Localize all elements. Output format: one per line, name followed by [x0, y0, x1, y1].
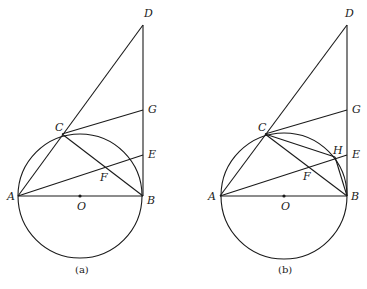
label-g-b: G	[352, 103, 361, 116]
label-e-a: E	[147, 148, 156, 161]
segment-hb-b	[335, 157, 347, 196]
label-c-b: C	[258, 121, 267, 134]
label-f-b: F	[302, 170, 311, 183]
label-o-a: O	[77, 200, 86, 213]
caption-b: (b)	[278, 264, 292, 275]
label-d-a: D	[143, 7, 153, 20]
label-d-b: D	[344, 7, 354, 20]
label-b-a: B	[146, 194, 155, 207]
segment-ad-b	[220, 25, 347, 196]
segment-ad-a	[18, 25, 143, 196]
center-dot-a	[78, 194, 81, 197]
segment-cg-a	[62, 110, 143, 134]
segment-cb-a	[62, 134, 143, 196]
segment-ae-a	[18, 155, 143, 196]
label-f-a: F	[99, 171, 108, 184]
figure-a: D G E C F A B O (a)	[6, 7, 157, 275]
label-a-a: A	[6, 190, 15, 203]
label-g-a: G	[148, 103, 157, 116]
figure-b: D G E H C F A B O (b)	[207, 7, 361, 275]
label-a-b: A	[207, 190, 216, 203]
label-e-b: E	[351, 148, 360, 161]
segment-cg-b	[265, 110, 347, 134]
label-c-a: C	[55, 121, 64, 134]
geometry-diagram: D G E C F A B O (a) D G E H C F A B O (b…	[0, 0, 367, 289]
label-b-b: B	[350, 190, 359, 203]
center-dot-b	[282, 194, 285, 197]
label-h-b: H	[332, 144, 343, 157]
label-o-b: O	[281, 200, 290, 213]
caption-a: (a)	[75, 264, 89, 275]
segment-ch-b	[265, 134, 335, 157]
segment-ae-b	[220, 155, 347, 196]
